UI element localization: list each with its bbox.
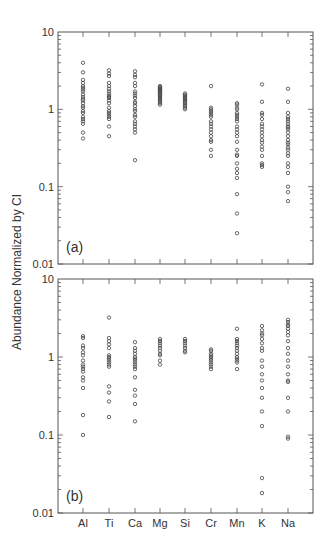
- panel-label: (a): [66, 239, 83, 255]
- data-point: [209, 84, 212, 87]
- data-point: [260, 117, 263, 120]
- data-point: [133, 420, 136, 423]
- data-point: [260, 324, 263, 327]
- data-point: [286, 135, 289, 138]
- data-point: [133, 159, 136, 162]
- data-point: [235, 327, 238, 330]
- data-point: [209, 154, 212, 157]
- data-point: [158, 359, 161, 362]
- x-category-label: Mn: [229, 517, 244, 529]
- data-point: [260, 359, 263, 362]
- data-point: [286, 373, 289, 376]
- data-point: [286, 199, 289, 202]
- series-si: [183, 92, 186, 111]
- data-point: [81, 61, 84, 64]
- data-point: [107, 346, 110, 349]
- data-point: [133, 376, 136, 379]
- data-point: [260, 386, 263, 389]
- data-point: [107, 74, 110, 77]
- data-point: [107, 400, 110, 403]
- data-point: [260, 396, 263, 399]
- data-point: [286, 190, 289, 193]
- data-point: [260, 379, 263, 382]
- series-si: [183, 337, 186, 354]
- y-tick-label: 0.1: [39, 181, 54, 193]
- data-point: [107, 316, 110, 319]
- data-point: [260, 135, 263, 138]
- series-ti: [107, 69, 110, 138]
- data-point: [260, 83, 263, 86]
- data-point: [286, 359, 289, 362]
- data-point: [107, 69, 110, 72]
- data-point: [286, 165, 289, 168]
- data-point: [260, 342, 263, 345]
- data-point: [286, 87, 289, 90]
- series-al: [81, 335, 84, 437]
- series-cr: [209, 348, 212, 371]
- data-point: [260, 373, 263, 376]
- data-point: [286, 334, 289, 337]
- series-al: [81, 61, 84, 140]
- data-point: [286, 396, 289, 399]
- data-point: [133, 394, 136, 397]
- data-point: [235, 140, 238, 143]
- x-category-label: Si: [180, 517, 190, 529]
- x-category-label: K: [258, 517, 266, 529]
- data-point: [235, 176, 238, 179]
- data-point: [286, 162, 289, 165]
- data-point: [260, 491, 263, 494]
- y-tick-label: 10: [42, 273, 54, 285]
- data-point: [286, 171, 289, 174]
- data-point: [81, 433, 84, 436]
- y-tick-label: 0.01: [33, 507, 54, 519]
- series-mg: [158, 337, 161, 366]
- data-point: [81, 359, 84, 362]
- series-k: [260, 324, 263, 495]
- data-point: [133, 96, 136, 99]
- data-point: [133, 388, 136, 391]
- data-point: [133, 402, 136, 405]
- data-point: [235, 162, 238, 165]
- series-mn: [235, 327, 238, 371]
- series-mg: [158, 84, 161, 106]
- data-point: [235, 135, 238, 138]
- series-na: [286, 87, 289, 203]
- data-point: [107, 106, 110, 109]
- data-point: [260, 337, 263, 340]
- data-point: [260, 476, 263, 479]
- plot-frame: [58, 32, 313, 264]
- y-tick-label: 10: [42, 26, 54, 38]
- data-point: [235, 193, 238, 196]
- panel-b: 1010.10.01(b)AlTiCaMgSiCrMnKNa: [33, 273, 313, 529]
- series-mn: [235, 102, 238, 235]
- data-point: [133, 341, 136, 344]
- panel-label: (b): [66, 488, 83, 504]
- data-point: [260, 100, 263, 103]
- data-point: [286, 111, 289, 114]
- x-category-label: Mg: [152, 517, 167, 529]
- data-point: [235, 167, 238, 170]
- data-point: [209, 148, 212, 151]
- series-na: [286, 318, 289, 440]
- data-point: [81, 137, 84, 140]
- data-point: [81, 386, 84, 389]
- data-point: [158, 363, 161, 366]
- data-point: [235, 148, 238, 151]
- data-point: [260, 424, 263, 427]
- data-point: [107, 365, 110, 368]
- y-axis-title: Abundance Normalized by CI: [10, 194, 24, 350]
- data-point: [235, 367, 238, 370]
- x-category-label: Ti: [105, 517, 114, 529]
- data-point: [107, 125, 110, 128]
- series-ca: [133, 70, 136, 162]
- data-point: [260, 154, 263, 157]
- data-point: [260, 410, 263, 413]
- data-point: [235, 120, 238, 123]
- data-point: [286, 185, 289, 188]
- data-point: [235, 171, 238, 174]
- y-tick-label: 0.1: [39, 429, 54, 441]
- x-category-label: Ca: [128, 517, 143, 529]
- data-point: [107, 391, 110, 394]
- series-ti: [107, 316, 110, 419]
- data-point: [133, 76, 136, 79]
